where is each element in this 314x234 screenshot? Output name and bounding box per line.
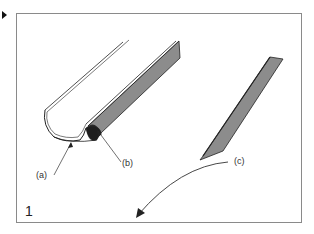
label-c: (c)	[234, 157, 245, 166]
channel-piece	[44, 40, 180, 141]
strip-piece	[200, 57, 283, 160]
curved-arrow	[136, 162, 228, 218]
label-a: (a)	[36, 171, 47, 180]
label-b: (b)	[122, 159, 133, 168]
figure-number: 1	[25, 204, 33, 218]
illustration	[0, 0, 314, 234]
